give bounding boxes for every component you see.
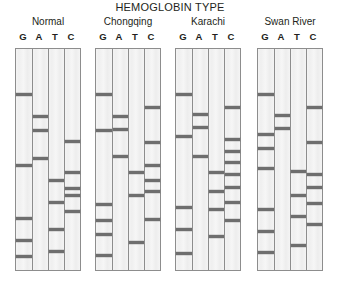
gel-band xyxy=(176,93,192,96)
gel-band xyxy=(65,210,80,213)
gel-band xyxy=(258,133,274,136)
gel-panel-label: Normal xyxy=(8,16,88,27)
gel-panel: Swan RiverGATC xyxy=(250,16,330,278)
gel-band xyxy=(225,201,240,204)
gel-lane-a xyxy=(192,49,208,270)
gel-band xyxy=(145,164,160,167)
gel-lane-a xyxy=(112,49,128,270)
sequencing-gel-figure: HEMOGLOBIN TYPE NormalGATCChongqingGATCK… xyxy=(0,0,340,281)
gel-lane-a xyxy=(274,49,290,270)
gel-band xyxy=(145,190,160,193)
gel-lane-c xyxy=(224,49,240,270)
lane-header-c: C xyxy=(143,31,159,42)
gel-band xyxy=(291,244,306,247)
gel-band xyxy=(33,157,48,160)
gel-band xyxy=(258,93,274,96)
gel-band xyxy=(291,194,306,197)
gel-panel: NormalGATC xyxy=(8,16,88,278)
gel-band xyxy=(16,255,32,258)
gel-band xyxy=(275,127,290,130)
gel-band xyxy=(16,217,32,220)
gel-band xyxy=(258,167,274,170)
page-title: HEMOGLOBIN TYPE xyxy=(0,1,340,13)
lane-header-t: T xyxy=(47,31,63,42)
gel-box xyxy=(257,48,323,271)
gel-band xyxy=(307,186,322,189)
gel-band xyxy=(258,230,274,233)
gel-band xyxy=(96,129,112,132)
gel-band xyxy=(65,187,80,190)
lane-header-c: C xyxy=(305,31,321,42)
gel-band xyxy=(258,147,274,150)
gel-band xyxy=(96,93,112,96)
gel-band xyxy=(291,170,306,173)
gel-band xyxy=(307,223,322,226)
gel-band xyxy=(225,150,240,153)
gel-band xyxy=(49,201,64,204)
gel-lane-t xyxy=(290,49,306,270)
gel-band xyxy=(113,115,128,118)
lane-header-t: T xyxy=(289,31,305,42)
gel-band xyxy=(225,106,240,109)
gel-band xyxy=(49,179,64,182)
lane-header-a: A xyxy=(191,31,207,42)
gel-band xyxy=(65,140,80,143)
gel-lane-g xyxy=(258,49,274,270)
gel-band xyxy=(49,250,64,253)
lane-header-a: A xyxy=(111,31,127,42)
gel-band xyxy=(16,93,32,96)
gel-lane-c xyxy=(306,49,322,270)
gel-band xyxy=(65,171,80,174)
gel-band xyxy=(129,241,144,244)
lane-header-a: A xyxy=(31,31,47,42)
gel-lane-t xyxy=(48,49,64,270)
lane-header-g: G xyxy=(15,31,31,42)
gel-band xyxy=(258,208,274,211)
lane-header-c: C xyxy=(223,31,239,42)
gel-band xyxy=(225,173,240,176)
gel-band xyxy=(193,155,208,158)
lane-header-g: G xyxy=(257,31,273,42)
gel-band xyxy=(96,254,112,257)
gel-band xyxy=(307,173,322,176)
lane-header-c: C xyxy=(63,31,79,42)
gel-band xyxy=(209,171,224,174)
gel-band xyxy=(275,114,290,117)
lane-header-row: GATC xyxy=(257,31,323,44)
gel-lane-g xyxy=(16,49,32,270)
gel-band xyxy=(129,194,144,197)
gel-band xyxy=(209,190,224,193)
gel-lane-t xyxy=(208,49,224,270)
lane-header-row: GATC xyxy=(175,31,241,44)
gel-band xyxy=(193,113,208,116)
lane-header-g: G xyxy=(95,31,111,42)
gel-panel: ChongqingGATC xyxy=(88,16,168,278)
gel-band xyxy=(291,215,306,218)
gel-lane-g xyxy=(96,49,112,270)
gel-band xyxy=(209,235,224,238)
lane-header-row: GATC xyxy=(95,31,161,44)
gel-band xyxy=(65,194,80,197)
gel-band xyxy=(176,206,192,209)
gel-panel-label: Swan River xyxy=(250,16,330,27)
lane-header-a: A xyxy=(273,31,289,42)
gel-band xyxy=(16,239,32,242)
gel-band xyxy=(145,141,160,144)
gel-band xyxy=(258,251,274,254)
gel-band xyxy=(307,106,322,109)
gel-band xyxy=(96,219,112,222)
gel-box xyxy=(15,48,81,271)
gel-band xyxy=(96,233,112,236)
gel-band xyxy=(209,208,224,211)
gel-band xyxy=(176,252,192,255)
gel-band xyxy=(225,186,240,189)
gel-lane-a xyxy=(32,49,48,270)
gel-band xyxy=(225,161,240,164)
gel-band xyxy=(49,228,64,231)
gel-band xyxy=(33,129,48,132)
gel-band xyxy=(176,135,192,138)
gel-band xyxy=(307,141,322,144)
gel-lane-c xyxy=(64,49,80,270)
gel-band xyxy=(145,179,160,182)
gel-band xyxy=(145,106,160,109)
